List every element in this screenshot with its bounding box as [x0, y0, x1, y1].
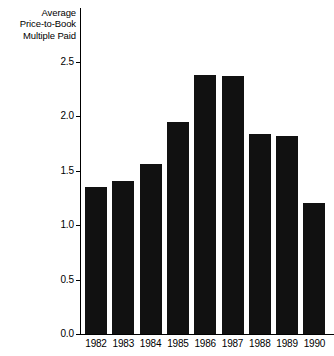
bar — [303, 203, 325, 334]
x-tick-label: 1990 — [298, 338, 330, 350]
bar — [276, 136, 298, 334]
bar — [167, 122, 189, 334]
bar — [140, 164, 162, 334]
bar-chart-figure: Average Price-to-Book Multiple Paid 0.00… — [0, 0, 334, 356]
bar — [194, 75, 216, 334]
bars-group — [0, 0, 334, 356]
bar — [85, 187, 107, 334]
bar — [222, 76, 244, 334]
bar — [249, 134, 271, 334]
bar — [112, 181, 134, 334]
